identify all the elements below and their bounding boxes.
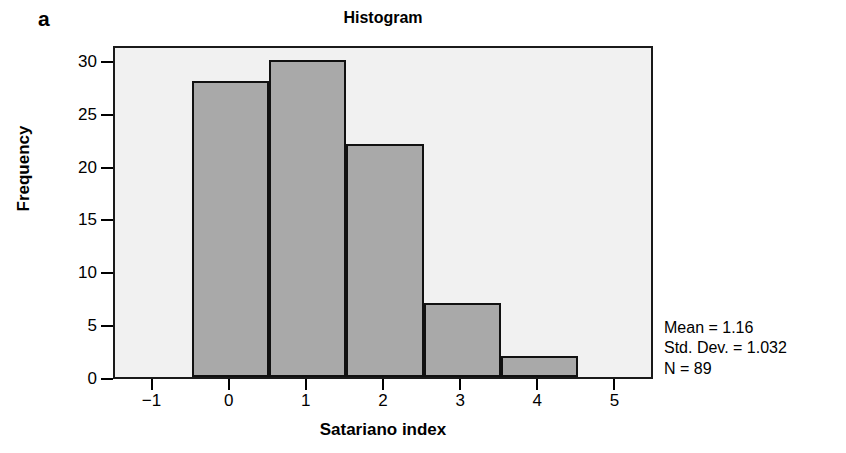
- x-axis-tick: [228, 379, 230, 390]
- y-axis-title: Frequency: [15, 99, 32, 239]
- y-axis-tick: [101, 114, 113, 116]
- histogram-bar: [346, 144, 423, 377]
- plot-area: [113, 46, 653, 379]
- y-axis-tick-label: 5: [88, 317, 97, 334]
- histogram-figure: a Histogram Frequency 051015202530 −1012…: [0, 0, 846, 453]
- x-axis-tick-label: 4: [512, 392, 562, 409]
- y-axis-tick: [101, 325, 113, 327]
- x-axis-tick: [459, 379, 461, 390]
- x-axis-tick: [305, 379, 307, 390]
- bar-group: [115, 48, 651, 377]
- x-axis-tick: [151, 379, 153, 390]
- stat-std-dev: Std. Dev. = 1.032: [664, 338, 787, 358]
- y-axis-tick-label: 25: [78, 106, 97, 123]
- x-axis-tick-label: −1: [127, 392, 177, 409]
- x-axis-tick-label: 1: [281, 392, 331, 409]
- y-axis: Frequency 051015202530: [0, 0, 113, 453]
- stat-mean: Mean = 1.16: [664, 318, 787, 338]
- y-axis-tick-label: 10: [78, 264, 97, 281]
- x-axis-tick: [613, 379, 615, 390]
- x-axis-tick-label: 5: [589, 392, 639, 409]
- y-axis-tick: [101, 219, 113, 221]
- y-axis-tick: [101, 272, 113, 274]
- y-axis-tick-label: 15: [78, 211, 97, 228]
- x-axis-title: Satariano index: [113, 421, 653, 438]
- y-axis-tick-label: 20: [78, 159, 97, 176]
- statistics-annotation: Mean = 1.16 Std. Dev. = 1.032 N = 89: [664, 318, 787, 379]
- y-axis-tick-label: 0: [88, 370, 97, 387]
- x-axis-tick-label: 2: [358, 392, 408, 409]
- stat-n: N = 89: [664, 359, 787, 379]
- chart-title: Histogram: [113, 10, 653, 26]
- x-axis-tick: [536, 379, 538, 390]
- x-axis-tick-label: 0: [204, 392, 254, 409]
- histogram-bar: [424, 303, 501, 377]
- x-axis-tick: [382, 379, 384, 390]
- histogram-bar: [501, 356, 578, 377]
- y-axis-tick: [101, 167, 113, 169]
- y-axis-tick: [101, 61, 113, 63]
- x-axis-tick-label: 3: [435, 392, 485, 409]
- y-axis-tick-label: 30: [78, 53, 97, 70]
- histogram-bar: [192, 81, 269, 377]
- histogram-bar: [269, 60, 346, 377]
- y-axis-tick: [101, 378, 113, 380]
